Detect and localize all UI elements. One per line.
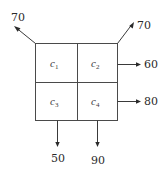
flow-grid-diagram: c1 c2 c3 c4 70 70 60 80 50 90	[0, 0, 163, 173]
flow-value-down-c4: 90	[91, 155, 105, 166]
arrow-right-c2	[118, 62, 142, 66]
flow-value-right-c4: 80	[144, 96, 158, 107]
arrowhead-icon	[136, 99, 141, 103]
arrow-up-right	[118, 22, 135, 44]
cell-label-c3: c3	[50, 96, 58, 109]
arrowhead-icon	[136, 62, 141, 66]
flow-value-right-c2: 60	[144, 59, 158, 70]
arrow-up-left	[14, 26, 36, 44]
cell-label-c2: c2	[91, 58, 99, 71]
arrowhead-icon	[95, 142, 99, 147]
arrow-down-c4	[95, 121, 99, 148]
arrow-right-c4	[118, 99, 142, 103]
flow-value-top-left: 70	[11, 12, 25, 23]
flow-value-top-right: 70	[137, 20, 151, 31]
arrow-down-c3	[55, 121, 59, 148]
flow-value-down-c3: 50	[51, 153, 65, 164]
cell-label-c4: c4	[91, 96, 99, 109]
cell-label-c1: c1	[50, 58, 58, 71]
arrowhead-icon	[55, 142, 59, 147]
